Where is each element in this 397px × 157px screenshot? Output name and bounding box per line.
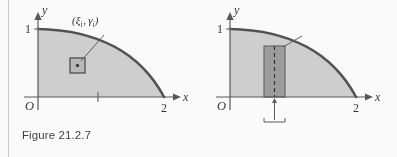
sample-point-label: (ξi , γi) xyxy=(72,15,98,29)
y-tick-label-1: 1 xyxy=(25,22,31,36)
y-axis-label: y xyxy=(233,3,240,17)
y-axis-arrowhead xyxy=(226,12,233,20)
figure-21-2-8-plot: y x O 1 2 xyxy=(198,0,397,157)
figure-caption: Figure 21.2.7 xyxy=(22,129,91,141)
figure-21-2-8: y x O 1 2 (ξi , 12√4 − ξi2) ξi Δi x Figu… xyxy=(198,0,397,157)
x-tick-label-2: 2 xyxy=(161,101,167,115)
y-axis-arrowhead xyxy=(34,12,41,20)
y-axis-label: y xyxy=(41,3,48,17)
origin-label: O xyxy=(25,99,34,113)
shaded-region xyxy=(230,29,356,97)
x-axis-arrowhead xyxy=(173,93,181,100)
sample-point-dot xyxy=(76,64,79,67)
y-tick-label-1: 1 xyxy=(217,22,223,36)
x-axis-label: x xyxy=(374,90,381,104)
origin-label: O xyxy=(217,99,226,113)
x-axis-label: x xyxy=(182,90,189,104)
x-axis-arrowhead xyxy=(365,93,373,100)
scanned-figure-page: y x O 1 2 (ξi , γi) Figure 21.2.7 xyxy=(0,0,397,157)
x-tick-label-2: 2 xyxy=(353,101,359,115)
figure-21-2-7: y x O 1 2 (ξi , γi) Figure 21.2.7 xyxy=(0,0,199,157)
xi-pointer-arrowhead xyxy=(272,98,277,103)
shaded-region xyxy=(38,29,164,97)
